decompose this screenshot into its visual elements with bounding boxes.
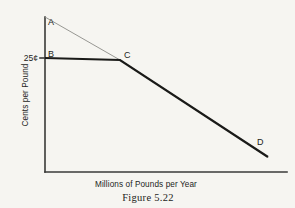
x-axis-title: Millions of Pounds per Year: [95, 180, 197, 189]
economics-line-chart: A B C D 25¢ Cents per Pound Millions of …: [0, 0, 295, 208]
figure-container: A B C D 25¢ Cents per Pound Millions of …: [0, 0, 295, 208]
point-label-c: C: [124, 50, 131, 60]
effective-price-thick-line: [45, 58, 268, 157]
point-label-b: B: [48, 49, 54, 59]
point-label-d: D: [257, 137, 264, 147]
y-tick-label-25c: 25¢: [24, 53, 38, 63]
point-label-a: A: [48, 17, 54, 27]
y-axis-title: Cents per Pound: [21, 63, 30, 126]
figure-caption: Figure 5.22: [122, 192, 174, 203]
